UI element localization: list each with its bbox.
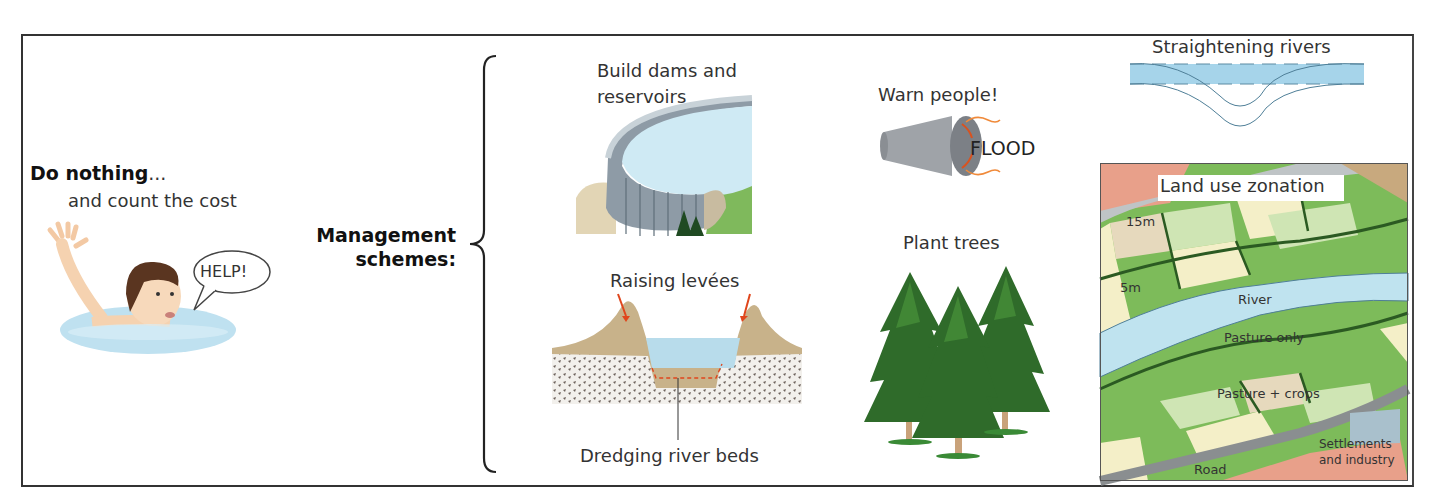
warn-people-label: Warn people! [878, 84, 998, 105]
dams-label-line1: Build dams and [597, 58, 737, 84]
dam-reservoir-illustration [576, 98, 756, 238]
management-label-line1: Management [312, 223, 456, 247]
straightening-rivers-label: Straightening rivers [1152, 36, 1331, 57]
speech-bubble [190, 248, 280, 318]
do-nothing-title: Do nothing [30, 162, 148, 184]
management-label-line2: schemes: [312, 247, 456, 271]
help-text: HELP! [200, 262, 247, 281]
flood-text: FLOOD [970, 137, 1035, 159]
map-border [1100, 163, 1408, 481]
ellipsis: ... [148, 162, 166, 184]
do-nothing-heading: Do nothing... [30, 162, 166, 184]
curly-brace [462, 54, 502, 476]
raising-levees-label: Raising levées [610, 270, 739, 291]
plant-trees-label: Plant trees [903, 232, 1000, 253]
dredging-label: Dredging river beds [580, 445, 759, 466]
count-cost-text: and count the cost [68, 190, 237, 211]
conifer-trees-illustration [860, 262, 1050, 458]
river-straightening-illustration [1130, 60, 1370, 160]
levee-cross-section-illustration [552, 292, 808, 442]
management-schemes-label: Management schemes: [312, 223, 456, 271]
